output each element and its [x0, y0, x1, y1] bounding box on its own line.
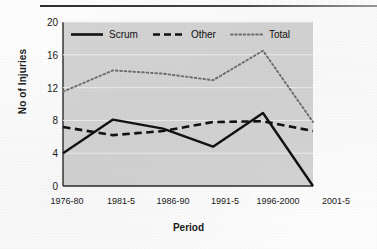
series-line-total	[63, 51, 313, 122]
injury-line-chart-figure: No of Injuries Period 20 16 12 8 4 0 197…	[0, 0, 377, 249]
top-divider-rule	[40, 5, 377, 7]
data-series-layer	[0, 0, 377, 249]
series-line-scrum	[63, 113, 313, 186]
